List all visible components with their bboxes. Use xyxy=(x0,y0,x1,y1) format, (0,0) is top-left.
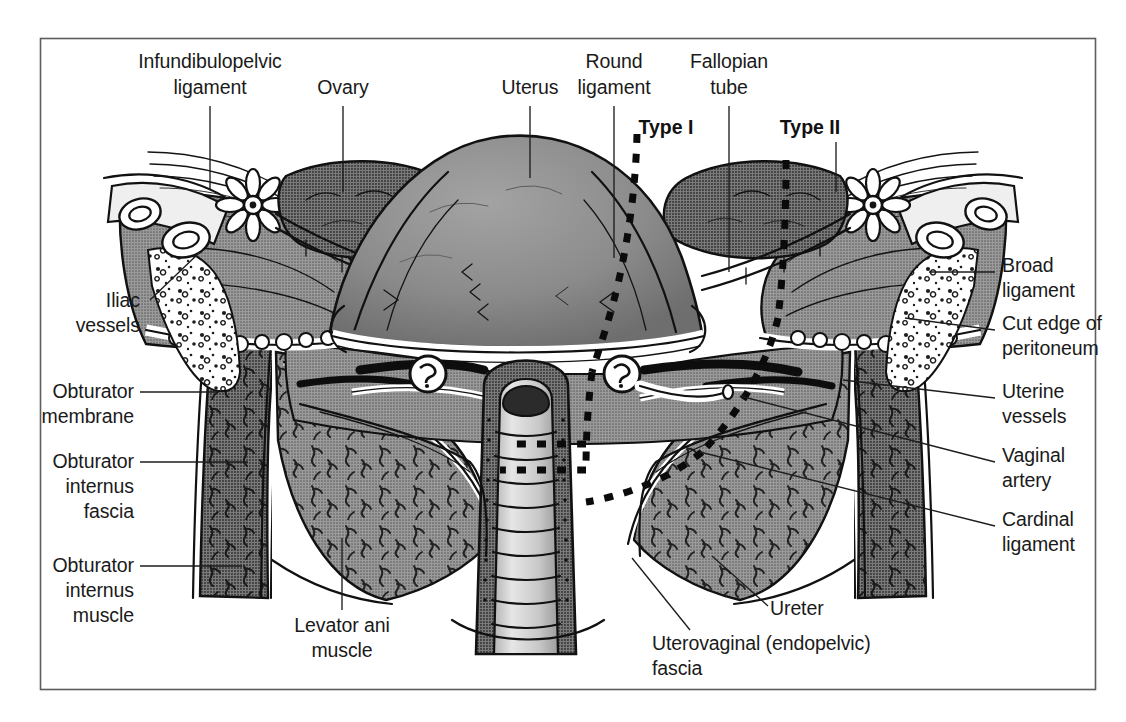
label-fallopian-tube-line1: Fallopian xyxy=(690,50,768,72)
label-iliac-vessels-line2: vessels xyxy=(76,314,141,336)
label-uterine-vessels-line1: Uterine xyxy=(1002,380,1064,402)
label-ureter: Ureter xyxy=(770,597,824,619)
label-cut-edge-of-peritoneum-line1: Cut edge of xyxy=(1002,312,1102,334)
illustration-artwork xyxy=(104,134,1022,654)
label-uterovaginal-fascia-line2: fascia xyxy=(652,657,703,679)
label-obturator-internus-fascia-line1: Obturator xyxy=(53,450,135,472)
label-uterus: Uterus xyxy=(502,76,559,98)
label-obturator-internus-muscle-line1: Obturator xyxy=(53,554,135,576)
label-obturator-membrane-line1: Obturator xyxy=(53,380,135,402)
label-obturator-internus-muscle-line2: internus xyxy=(65,579,134,601)
label-ovary: Ovary xyxy=(317,76,369,98)
label-cut-edge-of-peritoneum-line2: peritoneum xyxy=(1002,337,1099,359)
label-round-ligament-line2: ligament xyxy=(578,76,652,98)
label-levator-ani-muscle-line1: Levator ani xyxy=(294,614,389,636)
label-infundibulopelvic-ligament-line1: Infundibulopelvic xyxy=(138,50,282,72)
label-uterovaginal-fascia-line1: Uterovaginal (endopelvic) xyxy=(652,632,871,654)
label-cardinal-ligament-line2: ligament xyxy=(1002,533,1076,555)
label-uterine-vessels-line2: vessels xyxy=(1002,405,1067,427)
label-obturator-internus-muscle-line3: muscle xyxy=(73,604,134,626)
label-broad-ligament-line2: ligament xyxy=(1002,279,1076,301)
label-broad-ligament-line1: Broad xyxy=(1002,254,1054,276)
label-infundibulopelvic-ligament-line2: ligament xyxy=(174,76,248,98)
label-fallopian-tube-line2: tube xyxy=(710,76,748,98)
label-type-i: Type I xyxy=(639,116,694,138)
ureter-left xyxy=(410,356,446,392)
label-type-ii: Type II xyxy=(780,116,840,138)
label-cardinal-ligament-line1: Cardinal xyxy=(1002,508,1074,530)
label-iliac-vessels-line1: Iliac xyxy=(106,289,141,311)
label-obturator-internus-fascia-line3: fascia xyxy=(84,500,135,522)
label-vaginal-artery-line1: Vaginal xyxy=(1002,444,1065,466)
label-levator-ani-muscle-line2: muscle xyxy=(311,639,372,661)
label-obturator-membrane-line2: membrane xyxy=(42,405,134,427)
anatomical-figure: Infundibulopelvic ligament Ovary Uterus … xyxy=(0,0,1126,722)
label-vaginal-artery-line2: artery xyxy=(1002,469,1052,491)
label-round-ligament-line1: Round xyxy=(586,50,643,72)
label-obturator-internus-fascia-line2: internus xyxy=(65,475,134,497)
